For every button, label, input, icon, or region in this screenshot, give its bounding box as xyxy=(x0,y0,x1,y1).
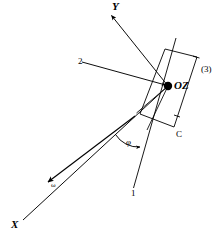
angle-label-phi: φ xyxy=(126,138,131,147)
omega-vector-arrow xyxy=(48,116,135,182)
ray-2-line xyxy=(82,62,166,85)
ray-label-1: 1 xyxy=(131,189,136,198)
ray-label-2: 2 xyxy=(78,57,83,66)
axis-label-x: X xyxy=(11,219,18,230)
axis-label-y: Y xyxy=(112,1,119,12)
diagram-vector-graphic xyxy=(0,0,222,235)
point-label-oz: OZ xyxy=(174,80,189,91)
vector-label-omega: ω xyxy=(51,182,56,189)
plate-label-3: (3) xyxy=(201,65,212,74)
origin-point-dot xyxy=(164,82,172,90)
axis-x-line xyxy=(23,86,168,220)
corner-label-c: C xyxy=(176,130,182,139)
axis-y-line xyxy=(112,16,169,87)
inner-line-oz-to-corner xyxy=(137,86,169,113)
figure-canvas: Y X OZ C (3) 1 2 φ ω xyxy=(0,0,222,235)
